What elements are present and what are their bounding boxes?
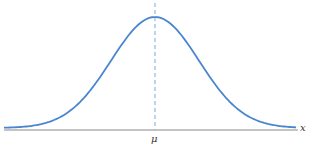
normal-curve (4, 17, 296, 128)
x-axis-label: x (300, 122, 306, 133)
mean-label: μ (151, 133, 158, 144)
bell-curve-diagram (0, 0, 309, 148)
